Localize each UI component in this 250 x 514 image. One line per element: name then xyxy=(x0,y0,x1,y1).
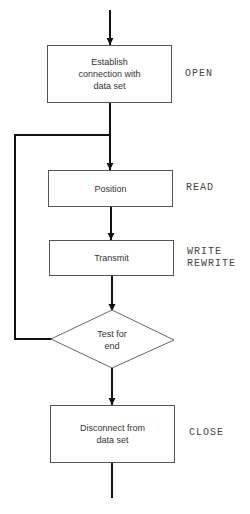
establish-connection-box: Establish connection with data set xyxy=(47,45,172,103)
open-annotation: OPEN xyxy=(185,68,213,80)
position-box: Position xyxy=(48,170,173,207)
disconnect-box: Disconnect from data set xyxy=(50,405,175,463)
read-annotation: READ xyxy=(186,182,214,194)
write-rewrite-annotation: WRITE REWRITE xyxy=(187,246,236,270)
transmit-box: Transmit xyxy=(49,240,174,276)
test-for-end-label: Test for end xyxy=(82,328,142,352)
close-annotation: CLOSE xyxy=(189,427,224,439)
